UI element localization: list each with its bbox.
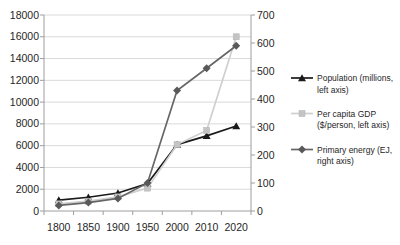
legend-label: Per capita GDP [317, 109, 376, 119]
y-axis-left-label: 0 [33, 205, 39, 217]
y-axis-left-label: 16000 [10, 30, 39, 42]
x-axis-label: 2000 [165, 221, 189, 233]
legend-label: Population (millions, [317, 73, 393, 83]
x-axis-label: 2020 [225, 221, 249, 233]
y-axis-right-label: 200 [257, 149, 275, 161]
series-line-1 [59, 37, 236, 204]
y-axis-left-label: 14000 [10, 52, 39, 64]
x-axis-label: 1900 [106, 221, 130, 233]
legend-label: ($/person, left axis) [317, 120, 389, 130]
y-axis-right-label: 500 [257, 65, 275, 77]
y-axis-left-label: 6000 [16, 139, 40, 151]
x-axis-label: 2010 [195, 221, 219, 233]
y-axis-left-label: 8000 [16, 117, 40, 129]
legend-square-icon [299, 111, 305, 117]
series-marker-1 [174, 142, 180, 148]
y-axis-right-label: 700 [257, 9, 275, 21]
y-axis-right-label: 300 [257, 121, 275, 133]
y-axis-left-label: 18000 [10, 9, 39, 21]
plot-area: 0200040006000800010000120001400016000180… [0, 0, 400, 245]
y-axis-left-label: 10000 [10, 96, 39, 108]
y-axis-right-label: 0 [257, 205, 263, 217]
y-axis-left-label: 4000 [16, 161, 40, 173]
legend-diamond-icon [298, 146, 306, 154]
series-marker-1 [233, 34, 239, 40]
chart: 0200040006000800010000120001400016000180… [0, 0, 400, 245]
y-axis-right-label: 100 [257, 177, 275, 189]
x-axis-label: 1850 [77, 221, 101, 233]
x-axis-label: 1950 [136, 221, 160, 233]
y-axis-left-label: 2000 [16, 183, 40, 195]
y-axis-right-label: 600 [257, 37, 275, 49]
legend-label: left axis) [317, 85, 349, 95]
series-marker-1 [204, 127, 210, 133]
x-axis-label: 1800 [47, 221, 71, 233]
legend-label: right axis) [317, 156, 354, 166]
legend-label: Primary energy (EJ, [317, 145, 392, 155]
y-axis-right-label: 400 [257, 93, 275, 105]
series-marker-0 [232, 122, 240, 129]
y-axis-left-label: 12000 [10, 74, 39, 86]
